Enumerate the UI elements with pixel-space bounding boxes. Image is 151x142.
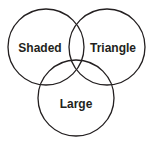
- venn-diagram: Shaded Triangle Large: [0, 0, 151, 142]
- label-large: Large: [60, 97, 93, 111]
- label-shaded: Shaded: [18, 41, 61, 55]
- label-triangle: Triangle: [90, 41, 136, 55]
